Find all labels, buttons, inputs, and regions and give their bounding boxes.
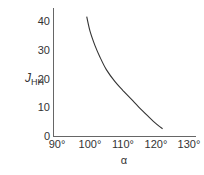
x-axis-label: α	[121, 154, 128, 166]
y-tick-label: 10	[38, 101, 50, 113]
data-curve	[87, 17, 163, 129]
x-tick-label: 130°	[178, 138, 201, 150]
x-tick-labels: 90°100°110°120°130°	[49, 138, 201, 150]
chart: 010203040 90°100°110°120°130° JHH α	[0, 0, 204, 175]
x-tick-label: 110°	[112, 138, 134, 150]
x-tick-label: 90°	[49, 138, 66, 150]
y-tick-label: 30	[38, 44, 50, 56]
y-tick-label: 40	[38, 15, 50, 27]
x-tick-label: 120°	[145, 138, 168, 150]
x-tick-label: 100°	[79, 138, 102, 150]
